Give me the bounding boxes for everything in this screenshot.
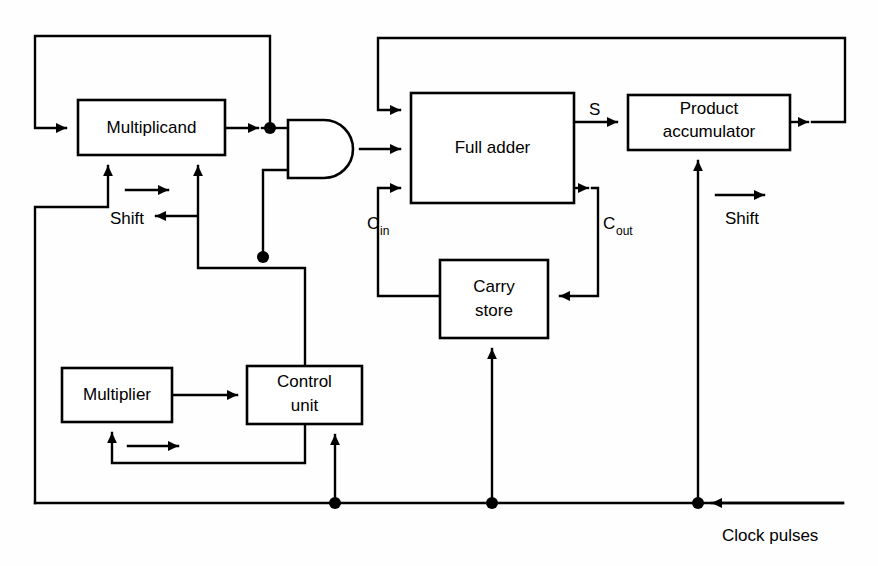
- block-multiplicand-label: Multiplicand: [107, 118, 197, 137]
- block-control-unit-label-line2: unit: [291, 396, 319, 415]
- junction-dot-clock-carry: [486, 497, 498, 509]
- block-product-accumulator-label-line2: accumulator: [663, 122, 756, 141]
- block-multiplier-label: Multiplier: [83, 385, 151, 404]
- wire-control-to-and-gate: [263, 170, 288, 257]
- signal-label-clock-pulses: Clock pulses: [722, 526, 818, 545]
- wire-control-to-multiplier: [112, 424, 305, 463]
- signal-label-sum: S: [589, 100, 600, 119]
- signal-label-carry-out: C out: [603, 214, 633, 238]
- block-full-adder[interactable]: Full adder: [411, 93, 574, 203]
- block-carry-store-label-line2: store: [475, 301, 513, 320]
- block-multiplier[interactable]: Multiplier: [62, 368, 172, 422]
- signal-label-carry-out-base: C: [603, 214, 615, 233]
- block-control-unit[interactable]: Control unit: [247, 366, 362, 424]
- signal-label-shift-left: Shift: [110, 209, 144, 228]
- block-product-accumulator[interactable]: Product accumulator: [628, 95, 790, 150]
- block-multiplicand[interactable]: Multiplicand: [78, 100, 225, 155]
- junction-dot-clock-product: [692, 497, 704, 509]
- signal-label-carry-in-subscript: in: [380, 224, 389, 238]
- signal-label-carry-in-base: C: [367, 214, 379, 233]
- block-diagram: Multiplicand Full adder Product accumula…: [0, 0, 878, 566]
- block-carry-store[interactable]: Carry store: [440, 260, 548, 338]
- block-control-unit-label-line1: Control: [277, 372, 332, 391]
- signal-label-shift-right: Shift: [725, 209, 759, 228]
- signal-label-carry-out-subscript: out: [616, 224, 633, 238]
- junction-dot-clock-control: [329, 497, 341, 509]
- diagram-canvas: Multiplicand Full adder Product accumula…: [0, 0, 878, 566]
- block-full-adder-label: Full adder: [455, 138, 531, 157]
- block-carry-store-label-line1: Carry: [473, 277, 515, 296]
- junction-dot-and-lower-input: [257, 251, 269, 263]
- wire-control-to-multiplicand: [198, 166, 305, 366]
- wire-clock-to-multiplicand: [35, 166, 108, 503]
- junction-dot-multiplicand-out: [264, 122, 276, 134]
- and-gate[interactable]: [288, 120, 353, 178]
- block-product-accumulator-label-line1: Product: [680, 99, 739, 118]
